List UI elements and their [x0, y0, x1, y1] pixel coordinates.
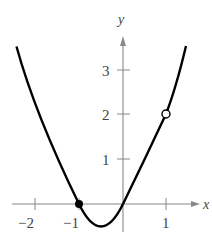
x-tick-label: −2	[18, 215, 34, 231]
x-axis-label: x	[202, 197, 210, 212]
x-tick-label: 1	[162, 215, 170, 231]
open-point	[162, 110, 170, 118]
function-curve-right	[123, 46, 186, 204]
y-axis-label: y	[116, 12, 125, 27]
x-tick-label: −1	[63, 215, 79, 231]
y-tick-label: 3	[102, 63, 110, 79]
x-axis-arrow-icon	[191, 201, 200, 207]
function-graph: x y −2 −1 1 3 2 1	[0, 0, 212, 233]
closed-point	[75, 200, 83, 208]
y-axis-arrow-icon	[120, 36, 126, 46]
y-tick-label: 1	[102, 152, 110, 168]
y-tick-label: 2	[102, 107, 110, 123]
